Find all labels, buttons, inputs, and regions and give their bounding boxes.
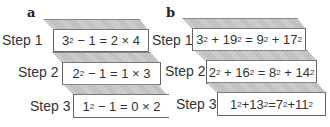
- equation-box: 22 − 1 = 1 × 3: [62, 62, 161, 85]
- step-label: Step 2: [18, 64, 58, 80]
- equation-term: 3: [196, 32, 203, 47]
- equation-term: + 17: [268, 32, 297, 47]
- panel-b-label: b: [166, 5, 175, 20]
- equation-term: 1: [83, 99, 90, 114]
- equation-box: 12 − 1 = 0 × 2: [73, 94, 169, 118]
- equation-term: 1: [230, 97, 237, 112]
- equation-term: 2: [209, 65, 216, 80]
- equation-term: =7: [268, 97, 283, 112]
- equation-term: − 1 = 0 × 2: [94, 99, 160, 114]
- exponent: 2: [309, 100, 313, 109]
- equation-box: 22 + 162 = 82 + 142: [206, 60, 317, 84]
- equation-term: = 9: [242, 32, 264, 47]
- exponent: 2: [297, 35, 301, 44]
- equation-term: +13: [242, 97, 264, 112]
- equation-term: − 1 = 1 × 3: [84, 66, 150, 81]
- step-label: Step 3: [30, 98, 70, 114]
- exponent: 2: [310, 68, 314, 77]
- equation-box: 32 + 192 = 92 + 172: [192, 28, 306, 51]
- equation-term: + 14: [281, 65, 310, 80]
- equation-term: + 19: [208, 32, 237, 47]
- equation-term: 2: [73, 66, 80, 81]
- equation-term: = 8: [254, 65, 276, 80]
- step-label: Step 1: [152, 32, 192, 48]
- equation-term: − 1 = 2 × 4: [74, 33, 140, 48]
- step-label: Step 1: [2, 32, 42, 48]
- step-label: Step 2: [165, 63, 205, 79]
- step-label: Step 3: [176, 96, 216, 112]
- equation-term: +11: [287, 97, 308, 112]
- equation-box: 12+132=72+112: [217, 92, 326, 116]
- equation-term: + 16: [220, 65, 249, 80]
- equation-box: 32 − 1 = 2 × 4: [53, 29, 149, 52]
- panel-a-label: a: [27, 5, 35, 20]
- equation-term: 3: [62, 33, 69, 48]
